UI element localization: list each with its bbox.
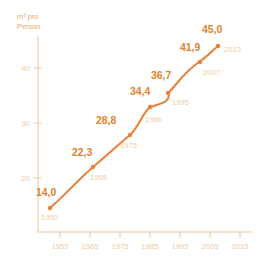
value-label-1995: 36,7	[151, 70, 171, 81]
x-tick-label-2015: 2015	[232, 242, 249, 251]
x-axis-group: 1955 1965 1975 1985 1995 2005 2015	[38, 232, 252, 251]
x-tick-label-2005: 2005	[202, 242, 219, 251]
x-tick-label-1975: 1975	[112, 242, 129, 251]
value-labels: 14,0 22,3 28,8 34,4 36,7 41,9 45,0	[36, 24, 222, 198]
y-axis-title-line2: Person	[17, 22, 40, 31]
year-label-2007: 2007	[203, 68, 220, 77]
data-point-2007	[198, 60, 202, 64]
year-label-1965: 1965	[90, 173, 107, 182]
year-labels: 1950 1965 1975 1986 1995 2007 2013	[41, 45, 241, 222]
chart-container: 40 30 20 m³ pro Person 1955 1965 1975 19…	[0, 0, 262, 263]
year-label-1975: 1975	[120, 141, 137, 150]
x-tick-label-1955: 1955	[52, 242, 69, 251]
year-label-1950: 1950	[41, 213, 58, 222]
year-label-2013: 2013	[224, 45, 241, 54]
x-tick-label-1995: 1995	[172, 242, 189, 251]
x-tick-label-1985: 1985	[142, 242, 159, 251]
value-label-1986: 34,4	[130, 86, 150, 97]
y-axis-title-line1: m³ pro	[17, 12, 38, 21]
y-tick-label-40: 40	[22, 64, 30, 73]
y-axis-group: 40 30 20 m³ pro Person	[17, 12, 41, 232]
year-label-1995: 1995	[172, 98, 189, 107]
data-point-1986	[148, 105, 152, 109]
value-label-1975: 28,8	[96, 115, 116, 126]
data-point-1965	[91, 165, 95, 169]
value-label-2007: 41,9	[180, 42, 200, 53]
value-label-1965: 22,3	[72, 147, 92, 158]
year-label-1986: 1986	[145, 115, 162, 124]
value-label-1950: 14,0	[36, 187, 56, 198]
value-label-2013: 45,0	[202, 24, 222, 35]
data-point-1950	[48, 206, 52, 210]
data-point-1975	[128, 133, 132, 137]
data-point-2013	[216, 44, 220, 48]
data-point-1995	[166, 91, 170, 95]
x-tick-label-1965: 1965	[82, 242, 99, 251]
line-chart: 40 30 20 m³ pro Person 1955 1965 1975 19…	[0, 0, 262, 263]
y-tick-label-20: 20	[22, 174, 30, 183]
data-series-line	[50, 46, 218, 208]
y-tick-label-30: 30	[22, 119, 30, 128]
